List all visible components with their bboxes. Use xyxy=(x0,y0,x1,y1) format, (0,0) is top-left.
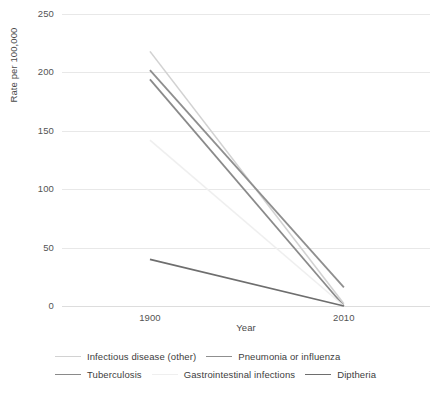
y-axis-tick-label: 250 xyxy=(10,9,54,19)
gridline xyxy=(62,306,430,307)
legend-item[interactable]: Infectious disease (other) xyxy=(55,347,196,365)
legend-label: Gastrointestinal infections xyxy=(184,369,295,380)
series-line xyxy=(150,70,344,287)
legend-swatch-icon xyxy=(152,374,178,375)
x-axis-title: Year xyxy=(62,322,430,333)
y-axis-tick-label: 150 xyxy=(10,126,54,136)
legend-label: Infectious disease (other) xyxy=(87,351,196,362)
y-axis-tick-label: 200 xyxy=(10,67,54,77)
legend-label: Pneumonia or influenza xyxy=(238,351,340,362)
legend-item[interactable]: Diptheria xyxy=(305,365,376,383)
legend-swatch-icon xyxy=(305,374,331,375)
plot-area: 050100150200250 19002010 xyxy=(62,14,430,306)
chart-legend: Infectious disease (other)Pneumonia or i… xyxy=(55,347,425,383)
series-line xyxy=(150,140,344,306)
legend-label: Tuberculosis xyxy=(87,369,142,380)
legend-label: Diptheria xyxy=(337,369,376,380)
legend-item[interactable]: Pneumonia or influenza xyxy=(206,347,340,365)
series-line xyxy=(150,79,344,306)
line-chart: Rate per 100,000 050100150200250 1900201… xyxy=(0,0,447,396)
legend-item[interactable]: Tuberculosis xyxy=(55,365,142,383)
y-axis-tick-label: 100 xyxy=(10,184,54,194)
legend-swatch-icon xyxy=(55,356,81,357)
y-axis-title: Rate per 100,000 xyxy=(8,10,19,120)
legend-item[interactable]: Gastrointestinal infections xyxy=(152,365,295,383)
legend-swatch-icon xyxy=(55,374,81,375)
y-axis-tick-label: 0 xyxy=(10,301,54,311)
y-axis-tick-label: 50 xyxy=(10,243,54,253)
legend-swatch-icon xyxy=(206,356,232,357)
series-lines xyxy=(62,14,430,306)
